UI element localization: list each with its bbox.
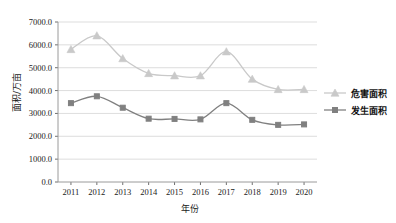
data-point-marker: [94, 94, 99, 99]
data-point-marker: [68, 101, 73, 106]
data-point-marker: [120, 105, 125, 110]
x-tick-label: 2018: [244, 187, 261, 197]
x-axis-ticks: 2011201220132014201520162017201820192020: [63, 182, 313, 197]
series-line: [71, 36, 304, 91]
x-tick-label: 2012: [88, 187, 105, 197]
y-tick-label: 7000.0: [29, 17, 52, 27]
x-tick-label: 2019: [270, 187, 287, 197]
legend-label: 发生面积: [350, 105, 387, 116]
plot-area: 0.01000.02000.03000.04000.05000.06000.07…: [0, 0, 396, 223]
line-chart: 面积/万亩 年份 0.01000.02000.03000.04000.05000…: [0, 0, 396, 223]
y-tick-label: 4000.0: [29, 86, 52, 96]
series-line: [71, 96, 304, 125]
x-tick-label: 2020: [296, 187, 313, 197]
data-point-marker: [146, 116, 151, 121]
data-series-layer: [67, 32, 308, 128]
data-point-marker: [172, 116, 177, 121]
x-tick-label: 2015: [166, 187, 183, 197]
y-tick-label: 1000.0: [29, 154, 52, 164]
data-point-marker: [276, 122, 281, 127]
x-tick-label: 2011: [63, 187, 80, 197]
legend-marker: [333, 108, 338, 113]
data-point-marker: [196, 72, 204, 79]
data-point-marker: [250, 117, 255, 122]
y-tick-label: 0.0: [41, 177, 52, 187]
x-tick-label: 2014: [140, 187, 158, 197]
y-tick-label: 5000.0: [29, 63, 52, 73]
x-tick-label: 2017: [218, 187, 235, 197]
legend-label: 危害面积: [350, 88, 387, 99]
data-point-marker: [302, 122, 307, 127]
data-point-marker: [224, 101, 229, 106]
data-point-marker: [222, 48, 230, 55]
x-tick-label: 2016: [192, 187, 209, 197]
data-point-marker: [198, 117, 203, 122]
x-tick-label: 2013: [114, 187, 131, 197]
data-point-marker: [67, 45, 75, 52]
y-axis-ticks: 0.01000.02000.03000.04000.05000.06000.07…: [29, 17, 58, 187]
y-tick-label: 2000.0: [29, 131, 52, 141]
chart-legend: 危害面积发生面积: [324, 88, 387, 116]
y-tick-label: 3000.0: [29, 108, 52, 118]
y-tick-label: 6000.0: [29, 40, 52, 50]
